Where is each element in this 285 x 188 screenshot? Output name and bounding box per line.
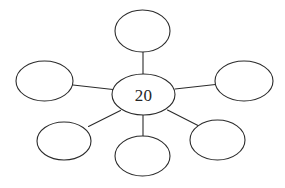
branch-node-bottom-left[interactable]: [37, 122, 91, 160]
branch-node-bottom-right[interactable]: [190, 120, 245, 160]
connector-line-bottom-left: [89, 111, 121, 127]
connector-line-left: [73, 85, 113, 90]
branch-node-top[interactable]: [115, 10, 170, 52]
branch-node-right[interactable]: [215, 61, 273, 101]
connector-line-right: [175, 85, 216, 90]
diagram-canvas: 20: [0, 0, 285, 188]
bubble-map-diagram: 20: [0, 0, 285, 188]
branch-node-bottom-center[interactable]: [115, 136, 170, 176]
branch-node-left[interactable]: [16, 61, 73, 101]
center-node-label: 20: [135, 86, 153, 105]
connector-line-bottom-right: [168, 110, 199, 126]
center-node-group: 20: [112, 74, 175, 115]
